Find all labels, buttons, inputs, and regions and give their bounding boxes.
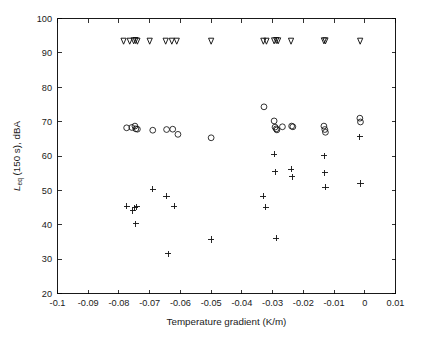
data-point-plus xyxy=(171,203,177,209)
x-tick-label: -0.02 xyxy=(293,298,314,308)
data-point-v xyxy=(147,38,152,44)
data-point-v xyxy=(174,38,179,44)
data-point-plus xyxy=(322,184,328,190)
y-tick-label: 80 xyxy=(42,83,52,93)
data-point-v xyxy=(169,38,174,44)
x-tick-label: -0.06 xyxy=(170,298,191,308)
data-point-plus xyxy=(208,236,214,242)
data-point-v xyxy=(209,38,214,44)
series-measured-leq-circles xyxy=(124,104,364,141)
data-point-plus xyxy=(271,151,277,157)
data-point-plus xyxy=(289,174,295,180)
data-point-v xyxy=(121,38,126,44)
data-point-circle xyxy=(164,127,170,133)
x-tick-label: -0.01 xyxy=(324,298,345,308)
x-tick-label: -0.09 xyxy=(78,298,99,308)
y-tick-label: 50 xyxy=(42,186,52,196)
data-point-plus xyxy=(357,180,363,186)
data-point-plus xyxy=(357,134,363,140)
x-tick-label: -0.1 xyxy=(50,298,66,308)
y-axis-tick-labels: 2030405060708090100 xyxy=(37,14,52,299)
data-point-v xyxy=(163,38,168,44)
data-point-circle xyxy=(175,131,181,137)
data-point-circle xyxy=(170,126,176,132)
data-point-plus xyxy=(272,169,278,175)
x-tick-label: -0.07 xyxy=(139,298,160,308)
x-axis-title-text: Temperature gradient (K/m) xyxy=(167,316,287,327)
data-point-circle xyxy=(271,118,277,124)
y-axis-ticks xyxy=(58,19,396,294)
data-point-circle xyxy=(208,135,214,141)
data-point-plus xyxy=(260,193,266,199)
y-tick-label: 30 xyxy=(42,254,52,264)
figure-container: -0.1-0.09-0.08-0.07-0.06-0.05-0.04-0.03-… xyxy=(0,0,421,346)
data-point-plus xyxy=(124,203,130,209)
y-tick-label: 20 xyxy=(42,289,52,299)
y-tick-label: 70 xyxy=(42,117,52,127)
y-axis-title: Leq (150 s), dBA xyxy=(11,121,24,191)
x-tick-label: -0.05 xyxy=(201,298,222,308)
x-axis-tick-labels: -0.1-0.09-0.08-0.07-0.06-0.05-0.04-0.03-… xyxy=(50,298,405,308)
x-tick-label: -0.03 xyxy=(262,298,283,308)
x-tick-label: 0 xyxy=(362,298,367,308)
data-point-plus xyxy=(288,166,294,172)
data-point-plus xyxy=(263,204,269,210)
data-point-plus xyxy=(150,186,156,192)
data-point-circle xyxy=(280,124,286,130)
data-point-circle xyxy=(358,119,364,125)
y-tick-label: 40 xyxy=(42,220,52,230)
x-tick-label: -0.04 xyxy=(231,298,252,308)
x-tick-label: 0.01 xyxy=(387,298,405,308)
data-point-plus xyxy=(163,193,169,199)
y-tick-label: 60 xyxy=(42,151,52,161)
data-point-plus xyxy=(321,153,327,159)
x-axis-title: Temperature gradient (K/m) xyxy=(167,316,287,327)
y-tick-label: 100 xyxy=(37,14,52,24)
series-background-leq-plus xyxy=(124,134,364,257)
data-point-v xyxy=(288,38,293,44)
axes-frame xyxy=(58,19,396,294)
data-point-circle xyxy=(261,104,267,110)
data-point-v xyxy=(358,38,363,44)
data-point-circle xyxy=(150,127,156,133)
x-tick-label: -0.08 xyxy=(108,298,129,308)
series-source-level-markers xyxy=(121,38,363,45)
data-point-plus xyxy=(322,170,328,176)
data-point-plus xyxy=(133,221,139,227)
data-point-plus xyxy=(165,251,171,257)
y-axis-title-text: Leq (150 s), dBA xyxy=(11,121,24,191)
scatter-plot: -0.1-0.09-0.08-0.07-0.06-0.05-0.04-0.03-… xyxy=(0,0,421,346)
y-tick-label: 90 xyxy=(42,48,52,58)
data-point-plus xyxy=(273,235,279,241)
x-axis-ticks xyxy=(58,19,396,294)
